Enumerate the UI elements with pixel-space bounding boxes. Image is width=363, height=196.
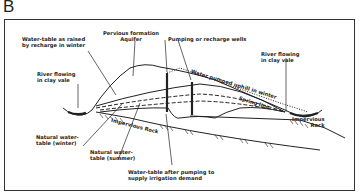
label-impervious-rock-right: Impervious Rock (292, 116, 325, 129)
label-pervious-formation: Pervious formation Aquifer (103, 30, 159, 43)
label-wt-after-pumping: Water-table after pumping to supply irri… (128, 169, 214, 182)
label-pumping-wells: Pumping or recharge wells (168, 36, 246, 42)
label-river-right: River flowing in clay vale (261, 51, 299, 64)
label-natural-wt-summer: Natural water- table (summer) (90, 149, 135, 162)
label-river-left: River flowing in clay vale (37, 71, 75, 84)
label-water-table-raised: Water-table as raised by recharge in win… (22, 36, 85, 49)
aquifer-cross-section (0, 0, 363, 196)
label-natural-wt-winter: Natural water- table (winter) (36, 134, 79, 147)
